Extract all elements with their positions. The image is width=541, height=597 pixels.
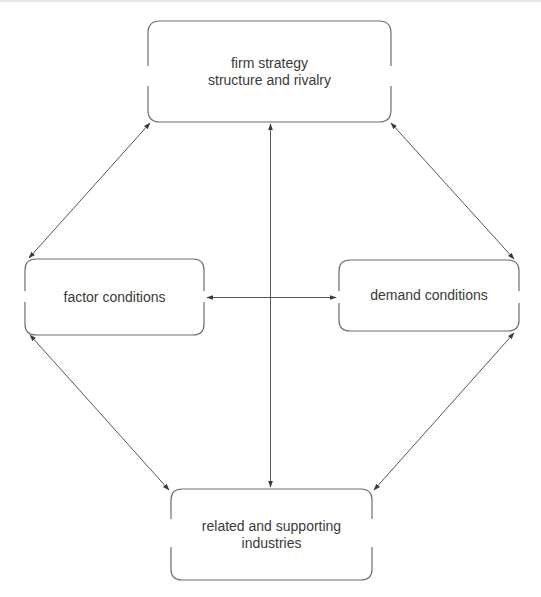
node-label-line: factor conditions [64, 289, 166, 306]
node-label-line: firm strategy [231, 55, 308, 72]
node-label-line: industries [242, 535, 302, 552]
edge-firm-factor [29, 123, 150, 258]
node-label-related-industries: related and supporting industries [171, 489, 372, 580]
node-label-line: demand conditions [370, 287, 488, 304]
node-label-factor-conditions: factor conditions [25, 259, 204, 335]
edge-demand-related [374, 333, 514, 490]
node-label-demand-conditions: demand conditions [339, 260, 519, 331]
edge-firm-demand [391, 123, 514, 259]
node-label-line: related and supporting [202, 518, 341, 535]
node-label-line: structure and rivalry [208, 72, 331, 89]
edge-factor-related [30, 335, 169, 490]
node-label-firm-strategy: firm strategy structure and rivalry [148, 21, 391, 122]
